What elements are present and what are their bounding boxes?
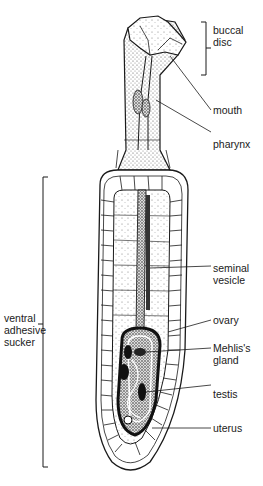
label-ventral-adhesive-sucker: ventral adhesive sucker <box>4 312 46 348</box>
testis-shape-2 <box>138 383 146 401</box>
label-buccal-disc: buccal disc <box>213 24 243 48</box>
anterior-body <box>116 16 186 170</box>
fluke-illustration <box>0 0 263 486</box>
label-uterus: uterus <box>213 422 242 434</box>
label-mouth: mouth <box>213 104 242 116</box>
label-pharynx: pharynx <box>213 138 250 150</box>
ventral-sucker <box>96 170 188 470</box>
label-testis: testis <box>213 388 238 400</box>
ovary-shape <box>124 345 132 359</box>
label-ovary: ovary <box>213 314 239 326</box>
label-mehlis-gland: Mehlis's gland <box>213 342 251 366</box>
testis-shape-1 <box>119 364 129 380</box>
diagram-canvas: buccal disc mouth pharynx ventral adhesi… <box>0 0 263 486</box>
mehlis-gland-shape <box>134 348 146 356</box>
label-seminal-vesicle: seminal vesicle <box>213 262 249 286</box>
